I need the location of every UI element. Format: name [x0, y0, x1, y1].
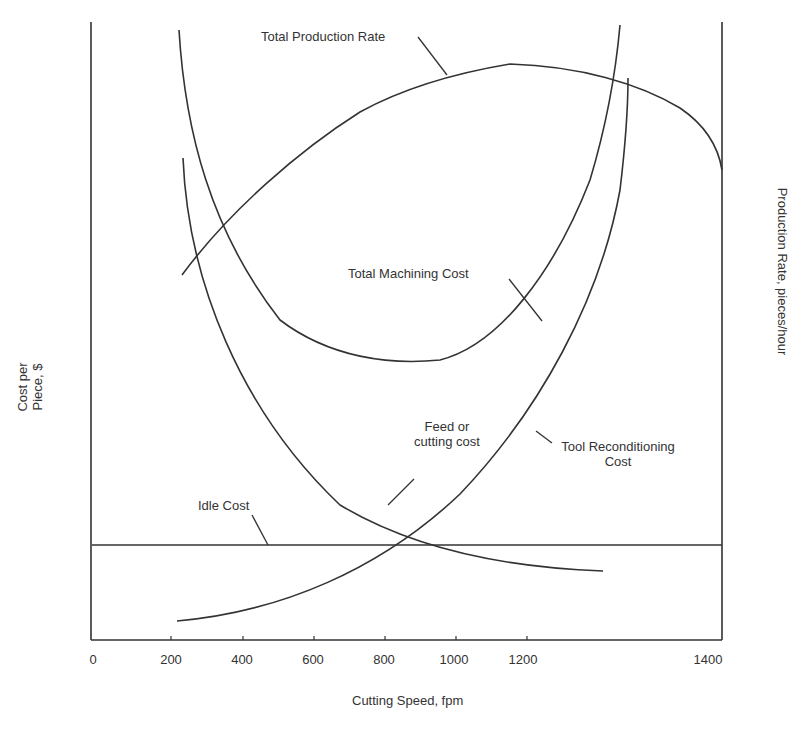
tool-reconditioning-cost-curve — [177, 78, 628, 621]
leader-feed-cutting-cost — [388, 479, 414, 505]
chart-canvas — [0, 0, 803, 731]
leader-idle-cost — [252, 515, 268, 545]
y-axis-left-title: Cost per Piece, $ — [15, 347, 45, 427]
leader-total-machining-cost — [509, 279, 542, 321]
y-axis-right-title: Production Rate, pieces/hour — [775, 172, 790, 372]
leader-total-production-rate — [418, 37, 447, 75]
label-idle-cost: Idle Cost — [198, 498, 249, 513]
x-tick-label-0: 0 — [89, 652, 96, 667]
label-feed-cutting-cost: Feed or cutting cost — [392, 419, 502, 449]
label-tool-line2: Cost — [553, 454, 683, 469]
label-feed-line2: cutting cost — [392, 434, 502, 449]
x-tick-label-800: 800 — [373, 652, 395, 667]
total-machining-cost-curve — [179, 25, 620, 361]
label-total-machining-cost: Total Machining Cost — [348, 266, 469, 281]
y-left-line1: Cost per — [15, 347, 30, 427]
x-tick-label-200: 200 — [160, 652, 182, 667]
leader-tool-reconditioning-cost — [536, 431, 552, 443]
total-production-rate-curve — [182, 64, 722, 275]
x-tick-label-1200: 1200 — [509, 652, 538, 667]
label-feed-line1: Feed or — [392, 419, 502, 434]
x-tick-label-1400: 1400 — [694, 652, 723, 667]
y-left-line2: Piece, $ — [30, 347, 45, 427]
x-tick-label-1000: 1000 — [440, 652, 469, 667]
x-tick-label-600: 600 — [302, 652, 324, 667]
x-tick-label-400: 400 — [231, 652, 253, 667]
label-tool-reconditioning-cost: Tool Reconditioning Cost — [553, 439, 683, 469]
x-axis-title: Cutting Speed, fpm — [352, 693, 463, 708]
label-total-production-rate: Total Production Rate — [261, 29, 385, 44]
label-tool-line1: Tool Reconditioning — [553, 439, 683, 454]
